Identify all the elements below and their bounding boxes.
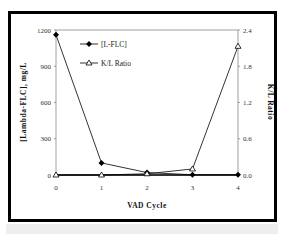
y-right-tick-label: 1.8 — [243, 63, 252, 71]
x-tick-label: 3 — [191, 184, 195, 192]
legend: [L-FLC] K/L Ratio — [80, 40, 131, 68]
triangle-marker-icon — [190, 166, 196, 171]
y-right-tick-label: 1.2 — [243, 99, 252, 107]
triangle-marker-icon — [235, 43, 241, 48]
legend-item-lflc: [L-FLC] — [80, 40, 127, 49]
y-left-tick-label: 600 — [41, 99, 52, 107]
y-left-tick-label: 1200 — [37, 27, 52, 35]
x-axis-title: VAD Cycle — [127, 201, 167, 210]
y-right-axis-title: K/L Ratio — [266, 84, 275, 120]
legend-label-lflc: [L-FLC] — [101, 40, 127, 49]
series-lines — [53, 32, 241, 178]
y-left-axis-title: [Lambda-FLC], mg/L — [19, 62, 28, 141]
y-right-tick-label: 2.4 — [243, 27, 252, 35]
y-left-tick-label: 300 — [41, 135, 52, 143]
y-left-tick-label: 900 — [41, 63, 52, 71]
diamond-marker-icon — [86, 41, 92, 47]
series-line — [56, 35, 238, 175]
legend-label-kl-ratio: K/L Ratio — [101, 59, 131, 68]
diamond-marker-icon — [53, 32, 59, 38]
legend-item-kl-ratio: K/L Ratio — [80, 59, 131, 68]
triangle-marker-icon — [86, 60, 92, 65]
x-tick-label: 2 — [145, 184, 149, 192]
diamond-marker-icon — [235, 172, 241, 178]
diamond-marker-icon — [190, 172, 196, 178]
y-left-tick-label: 0 — [48, 172, 52, 180]
diamond-marker-icon — [99, 160, 105, 166]
plot-area — [56, 30, 238, 175]
x-axis-ticks: 01234 — [54, 184, 240, 192]
x-tick-label: 0 — [54, 184, 58, 192]
left-axis-ticks: 03006009001200 — [37, 27, 56, 180]
x-tick-label: 1 — [100, 184, 104, 192]
chart-svg: 03006009001200 0.00.61.21.82.4 01234 VAD… — [0, 0, 285, 234]
right-axis-ticks: 0.00.61.21.82.4 — [238, 27, 252, 180]
x-tick-label: 4 — [236, 184, 240, 192]
y-right-tick-label: 0.6 — [243, 135, 252, 143]
y-right-tick-label: 0.0 — [243, 172, 252, 180]
